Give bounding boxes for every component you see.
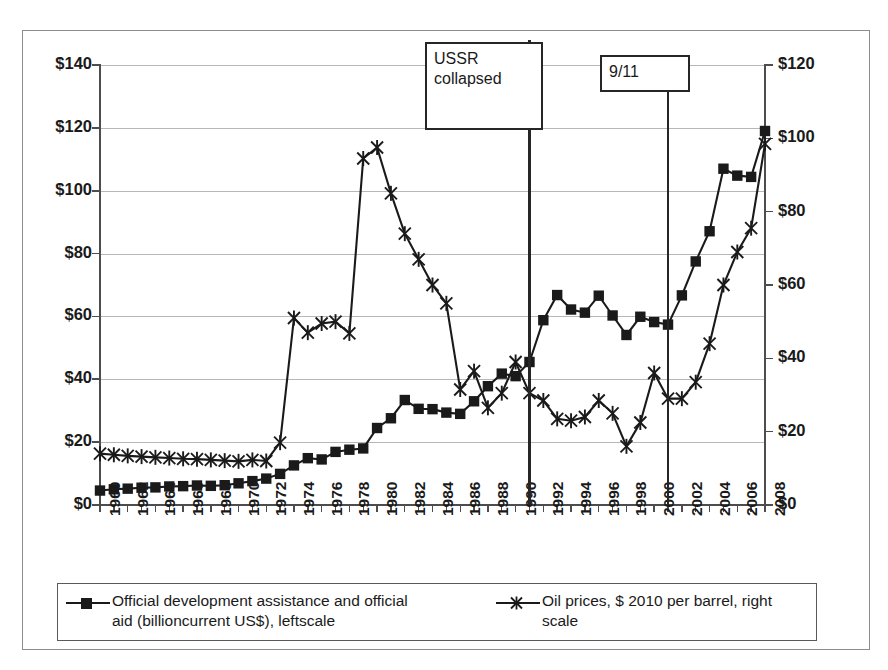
x-axis-tick-label: 1986	[466, 482, 484, 516]
series-oil-prices	[94, 136, 771, 469]
x-axis-tick	[487, 505, 488, 512]
data-point-marker-star	[219, 453, 231, 468]
data-point-marker-square	[303, 453, 313, 463]
data-point-marker-star	[537, 393, 549, 408]
data-point-marker-square	[566, 304, 576, 314]
x-axis-tick-label: 1974	[300, 482, 318, 516]
data-point-marker-square	[123, 483, 133, 493]
event-label-line2: collapsed	[434, 69, 534, 89]
x-axis-tick	[293, 505, 294, 512]
data-point-marker-star	[454, 382, 466, 397]
y-axis-left-tick	[92, 316, 100, 318]
data-point-marker-square	[427, 404, 437, 414]
data-point-marker-star	[343, 326, 355, 341]
data-point-marker-star	[648, 366, 660, 381]
x-axis-tick	[764, 505, 765, 512]
event-label-line1: USSR	[434, 49, 534, 69]
data-point-marker-star	[191, 452, 203, 467]
x-axis-tick	[266, 505, 267, 512]
x-axis-tick	[182, 505, 183, 512]
x-axis-tick	[543, 505, 544, 512]
x-axis-tick-label: 1980	[383, 482, 401, 516]
chart-legend: Official development assistance and offi…	[57, 583, 817, 641]
legend-label-oil: Oil prices, $ 2010 per barrel, right sca…	[542, 591, 782, 631]
data-point-marker-star	[717, 278, 729, 293]
x-axis-tick-label: 2002	[688, 482, 706, 516]
data-point-marker-star	[607, 406, 619, 421]
y-axis-left-tick	[92, 127, 100, 129]
data-point-marker-square	[386, 413, 396, 423]
data-point-marker-square	[621, 330, 631, 340]
x-axis-tick	[127, 505, 128, 512]
y-axis-right-tick-label: $80	[778, 201, 858, 220]
data-point-marker-square	[330, 447, 340, 457]
data-point-marker-star	[551, 411, 563, 426]
data-point-marker-square	[704, 226, 714, 236]
data-point-marker-star	[177, 451, 189, 466]
data-point-marker-star	[233, 454, 245, 469]
x-axis-tick	[349, 505, 350, 512]
y-axis-right-tick-label: $40	[778, 347, 858, 366]
y-axis-right-tick-label: $20	[778, 421, 858, 440]
y-axis-right-tick-label: $0	[778, 494, 858, 513]
data-point-marker-square	[483, 381, 493, 391]
y-axis-left-tick-label: $120	[6, 117, 92, 136]
x-axis-tick-label: 1968	[217, 482, 235, 516]
legend-label-oda: Official development assistance and offi…	[112, 591, 472, 631]
data-point-marker-star	[676, 391, 688, 406]
data-point-marker-star	[136, 449, 148, 464]
event-label-line1: 9/11	[609, 62, 681, 82]
data-point-marker-square	[649, 317, 659, 327]
x-axis-tick	[238, 505, 239, 512]
x-axis-tick	[460, 505, 461, 512]
data-point-marker-square	[316, 454, 326, 464]
legend-marker-star	[494, 593, 542, 613]
y-axis-right-tick-label: $60	[778, 274, 858, 293]
y-axis-left-tick-label: $0	[6, 494, 92, 513]
data-point-marker-star	[565, 413, 577, 428]
data-point-marker-star	[149, 450, 161, 465]
legend-item-oil: Oil prices, $ 2010 per barrel, right sca…	[494, 584, 794, 631]
gridline	[100, 191, 765, 192]
data-point-marker-star	[427, 278, 439, 293]
x-axis-tick	[681, 505, 682, 512]
x-axis-tick-label: 1962	[134, 482, 152, 516]
data-point-marker-star	[205, 452, 217, 467]
x-axis-tick-label: 1994	[577, 482, 595, 516]
x-axis-tick	[709, 505, 710, 512]
legend-item-oda: Official development assistance and offi…	[64, 584, 484, 631]
data-point-marker-square	[400, 395, 410, 405]
x-axis-tick-label: 1996	[605, 482, 623, 516]
data-point-marker-star	[745, 221, 757, 236]
data-point-marker-square	[718, 164, 728, 174]
data-point-marker-square	[358, 443, 368, 453]
x-axis-tick-label: 1972	[272, 482, 290, 516]
event-label-box-nine-eleven: 9/11	[600, 55, 690, 92]
data-point-marker-star	[704, 336, 716, 351]
y-axis-right-tick-label: $120	[778, 54, 858, 73]
x-axis-tick	[99, 505, 100, 512]
x-axis-tick-label: 2004	[716, 482, 734, 516]
x-axis-tick	[737, 505, 738, 512]
data-point-marker-star	[316, 316, 328, 331]
data-point-marker-square	[455, 409, 465, 419]
gridline	[100, 316, 765, 317]
x-axis-tick-label: 1982	[411, 482, 429, 516]
data-point-marker-star	[122, 448, 134, 463]
y-axis-left-tick-label: $80	[6, 243, 92, 262]
y-axis-right-tick	[765, 138, 773, 140]
data-point-marker-square	[469, 396, 479, 406]
data-point-marker-square	[497, 368, 507, 378]
data-point-marker-square	[746, 172, 756, 182]
x-axis-tick-label: 1976	[328, 482, 346, 516]
data-point-marker-star	[468, 364, 480, 379]
data-point-marker-star	[371, 140, 383, 155]
data-point-marker-star	[579, 410, 591, 425]
chart-canvas: $0$20$40$60$80$100$120$140 $0$20$40$60$8…	[0, 0, 888, 670]
data-point-marker-square	[594, 290, 604, 300]
y-axis-right-labels: $0$20$40$60$80$100$120	[778, 0, 868, 670]
series-line	[100, 131, 765, 491]
x-axis-tick-label: 2000	[660, 482, 678, 516]
y-axis-left	[99, 64, 101, 506]
data-point-marker-square	[691, 256, 701, 266]
